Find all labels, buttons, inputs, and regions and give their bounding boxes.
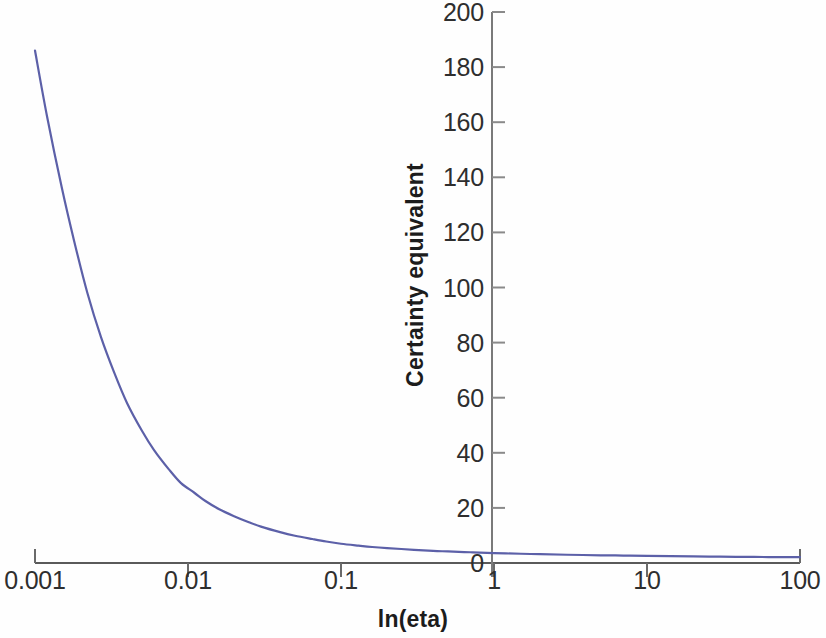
x-axis-tick-label: 1 xyxy=(487,566,501,595)
y-axis-tick-label: 0 xyxy=(0,549,484,578)
y-axis-ticks xyxy=(492,12,505,508)
y-axis-tick-label: 160 xyxy=(0,108,484,137)
y-axis-tick-label: 20 xyxy=(0,493,484,522)
x-axis-title: ln(eta) xyxy=(378,606,448,633)
y-axis-title: Certainty equivalent xyxy=(402,163,429,387)
x-axis-tick-label: 100 xyxy=(779,566,820,595)
chart-figure: 0.0010.010.1110100 020406080100120140160… xyxy=(0,0,826,638)
x-axis-tick-label: 10 xyxy=(633,566,660,595)
y-axis-tick-label: 60 xyxy=(0,383,484,412)
y-axis-tick-label: 180 xyxy=(0,53,484,82)
y-axis-tick-label: 200 xyxy=(0,0,484,27)
y-axis-tick-label: 40 xyxy=(0,438,484,467)
